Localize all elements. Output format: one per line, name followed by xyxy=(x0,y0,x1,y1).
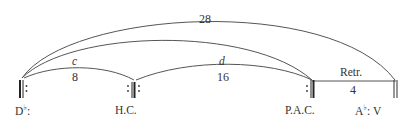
arc-28-label: 28 xyxy=(199,13,211,25)
barline-aflat xyxy=(394,80,398,98)
arc-dflat-to-pac xyxy=(22,40,312,80)
dflat-colon: : xyxy=(27,105,30,117)
aflat-rest: : V xyxy=(367,105,381,117)
node-aflat-label: A♭: V xyxy=(355,104,381,118)
retr-length-label: 4 xyxy=(350,84,356,96)
barline-dflat xyxy=(19,80,27,98)
arc-16-label: 16 xyxy=(217,71,229,83)
arc-d-label: d xyxy=(219,56,225,68)
arc-8-label: 8 xyxy=(72,71,78,83)
barline-hc xyxy=(127,82,140,98)
arc-8 xyxy=(24,68,134,80)
retr-label: Retr. xyxy=(340,67,362,79)
barline-pac xyxy=(306,80,314,98)
arc-c-label: c xyxy=(72,56,77,68)
node-pac-label: P.A.C. xyxy=(285,105,315,117)
node-hc-label: H.C. xyxy=(115,105,137,117)
node-dflat-label: D♭: xyxy=(15,104,30,118)
